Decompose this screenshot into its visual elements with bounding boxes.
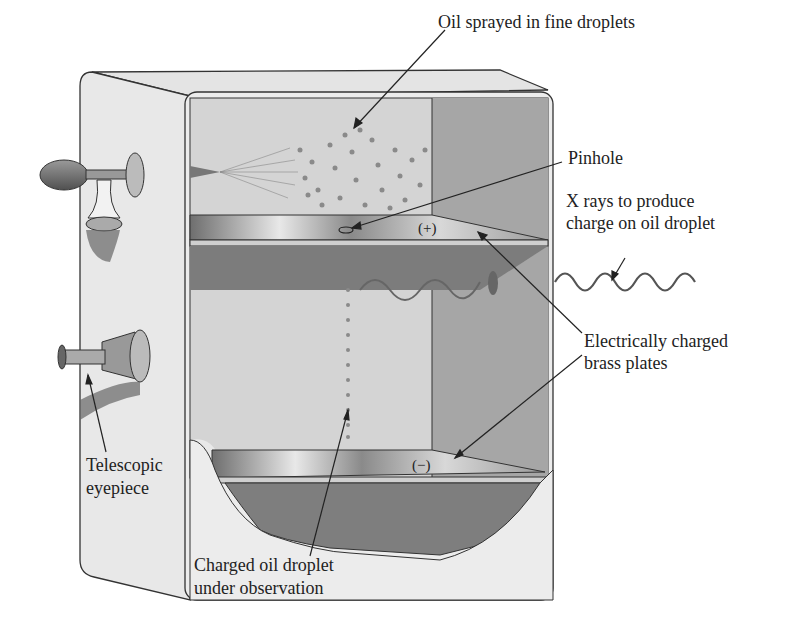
atomizer-bulb-icon [40, 160, 88, 190]
millikan-diagram: (+) (−) [0, 0, 788, 631]
label-droplet-2: under observation [194, 578, 323, 599]
oil-reservoir-icon [86, 217, 122, 231]
label-pinhole: Pinhole [568, 148, 623, 169]
apparatus-illustration: (+) (−) [0, 0, 788, 631]
label-plates-1: Electrically charged [584, 331, 728, 352]
label-xrays-2: charge on oil droplet [566, 213, 715, 234]
x-ray-source-icon [488, 271, 498, 295]
label-oil-spray: Oil sprayed in fine droplets [438, 12, 635, 33]
positive-sign: (+) [418, 220, 436, 237]
label-eyepiece-2: eyepiece [86, 478, 149, 499]
label-xrays-1: X rays to produce [566, 191, 694, 212]
label-eyepiece-1: Telescopic [86, 455, 163, 476]
label-droplet-1: Charged oil droplet [194, 555, 334, 576]
negative-sign: (−) [412, 457, 430, 474]
label-plates-2: brass plates [584, 353, 667, 374]
